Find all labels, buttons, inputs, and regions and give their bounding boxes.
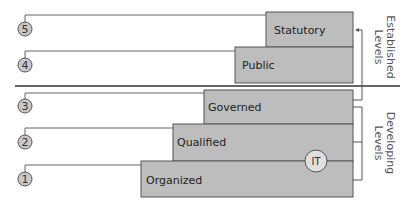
established-levels-label: Established Levels [372,15,397,78]
svg-text:4: 4 [22,59,29,72]
it-marker-label: IT [311,156,321,167]
svg-text:1: 1 [22,173,29,186]
level-box-5: Statutory [266,12,353,47]
svg-text:5: 5 [22,23,29,36]
maturity-levels-diagram: Statutory Public Governed Qualified Orga… [0,0,405,204]
level-label-statutory: Statutory [274,24,326,37]
connector-level-4 [25,51,235,59]
arrow-left-icon [355,28,359,32]
connector-level-2 [25,128,173,136]
svg-text:Levels: Levels [372,30,385,65]
level-number-5: 5 [18,22,32,36]
level-number-2: 2 [18,135,32,149]
level-number-1: 1 [18,172,32,186]
svg-text:3: 3 [22,100,29,113]
level-label-organized: Organized [146,174,202,187]
connector-level-5 [25,15,266,23]
level-box-3: Governed [204,90,353,124]
level-number-3: 3 [18,99,32,113]
connector-level-3 [25,93,204,100]
developing-levels-label: Developing Levels [372,112,397,174]
svg-text:Levels: Levels [372,126,385,161]
level-label-qualified: Qualified [177,136,226,149]
level-box-4: Public [235,47,353,83]
svg-text:2: 2 [22,136,29,149]
level-number-4: 4 [18,58,32,72]
level-label-public: Public [242,59,275,72]
level-label-governed: Governed [208,101,262,114]
established-bracket [353,28,362,100]
it-marker: IT [305,150,327,172]
connector-level-1 [25,165,141,173]
developing-bracket [353,107,362,180]
